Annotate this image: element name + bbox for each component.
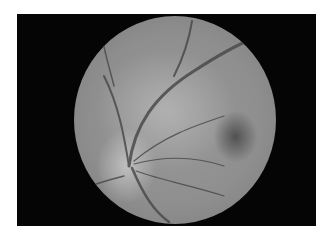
fundus-image <box>74 16 276 224</box>
image-frame <box>17 14 316 226</box>
retinal-vessels <box>74 16 276 224</box>
